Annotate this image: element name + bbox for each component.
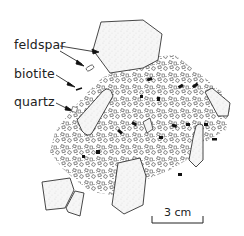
feldspar-sample-grain xyxy=(86,64,95,71)
rock-drawing xyxy=(0,0,244,236)
quartz-sample-grain xyxy=(71,106,77,112)
label-biotite: biotite xyxy=(14,68,55,81)
granite-sketch: feldspar biotite quartz 3 cm xyxy=(0,0,244,236)
feldspar-crystal-bottom xyxy=(112,158,146,214)
biotite-sample-flake xyxy=(76,88,82,90)
label-quartz: quartz xyxy=(14,96,55,109)
scale-bar-label: 3 cm xyxy=(164,207,191,218)
label-feldspar: feldspar xyxy=(14,39,66,52)
